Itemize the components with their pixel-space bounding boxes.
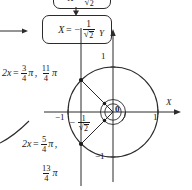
upper-term2-numerator: 11 [41,64,51,73]
y-axis-label: Y [99,29,104,38]
lower-term2-denominator: 4 [43,173,49,183]
annotation-upper-solution: 2x = 3 4 π , 11 4 π [2,62,57,82]
lower-equals: = [31,139,40,149]
upper-term1-numerator: 3 [21,64,27,73]
sqrt-icon: √ 2 [79,123,89,133]
lower-term2-numerator: 13 [41,164,52,173]
figure-canvas: X = 1 √ 2 X = − 1 [0,0,192,190]
special-tick-sign: − [68,118,77,128]
special-tick-denominator: √ 2 [78,122,90,133]
unit-circle-plot [0,0,192,190]
special-tick-radicand: 2 [84,124,89,133]
lower-lhs: 2x [22,139,31,149]
lower-term1-comma: , [53,139,59,149]
upper-term1-denominator: 4 [21,73,27,83]
lower-term1-denominator: 4 [41,144,47,154]
upper-term1-comma: , [33,68,39,78]
special-tick-fraction: 1 √ 2 [78,114,90,133]
upper-term2-denominator: 4 [43,73,49,83]
y-axis-arrowhead [110,29,115,36]
y-tick-label-pos1: 1 [101,52,106,61]
lower-term2-symbol: π [53,168,58,178]
upper-term2-symbol: π [52,68,57,78]
upper-term2-fraction: 11 4 [41,64,51,82]
x-tick-label-neg1: −1 [55,113,65,122]
incoming-flow-arrow [0,28,28,33]
special-tick-numerator: 1 [80,114,86,123]
lower-term2-fraction: 13 4 [41,164,52,182]
lower-term1-numerator: 5 [41,135,47,144]
x-tick-label-pos1: 1 [153,113,158,122]
radius-upper [81,80,113,112]
upper-term1-fraction: 3 4 [21,64,27,82]
upper-lhs: 2x [2,68,11,78]
arc-marker-upper [103,102,106,105]
annotation-lower-solution-second-term: 13 4 π [40,157,58,182]
x-axis-arrowhead [174,109,181,114]
point-5pi-over-4 [79,142,83,146]
lower-term1-fraction: 5 4 [41,135,47,153]
angle-sweep-tail [122,112,126,121]
arc-marker-lower [103,119,106,122]
upper-equals: = [11,68,20,78]
point-3pi-over-4 [79,78,83,82]
origin-label: 0 [115,105,120,114]
x-axis-label: X [166,98,172,107]
annotation-lower-solution: 2x = 5 4 π , [22,133,59,153]
x-tick-label-neg-one-over-sqrt2: − 1 √ 2 [68,112,91,133]
y-tick-label-neg1: −1 [95,152,105,161]
